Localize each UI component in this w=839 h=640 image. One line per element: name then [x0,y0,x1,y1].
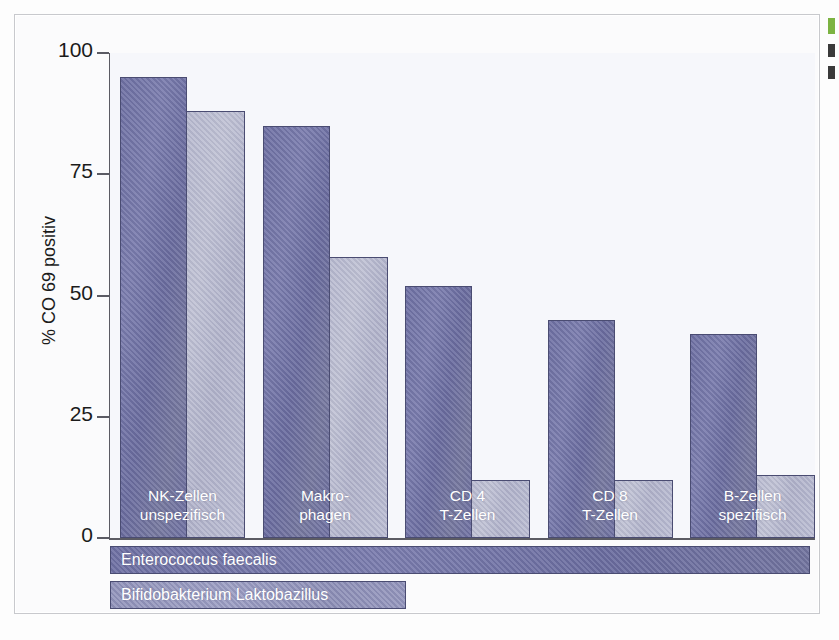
bar-series-enterococcus[interactable] [405,286,472,538]
y-axis-tick-mark [97,173,109,175]
y-axis-tick-mark [97,416,109,418]
bar-group: CD 4T-Zellen [405,53,530,538]
legend-item[interactable]: Enterococcus faecalis [110,546,810,574]
y-axis-tick-mark [97,295,109,297]
y-axis-title: % CO 69 positiv [39,171,60,391]
chart-frame: 1007550250 % CO 69 positiv NK-Zellenunsp… [14,14,820,614]
bar-series-bifidobakterium[interactable] [606,480,673,538]
legend-item[interactable]: Bifidobakterium Laktobazillus [110,581,406,609]
bar-series-bifidobakterium[interactable] [321,257,388,538]
y-axis-tick-label: 0 [35,523,93,547]
legend-item-label: Bifidobakterium Laktobazillus [121,586,328,604]
bar-series-bifidobakterium[interactable] [463,480,530,538]
x-axis-line [109,538,815,540]
bar-group: NK-Zellenunspezifisch [120,53,245,538]
y-axis-tick-label: 100 [35,38,93,62]
plot-area: NK-ZellenunspezifischMakro-phagenCD 4T-Z… [110,53,815,538]
bar-group: Makro-phagen [263,53,388,538]
bar-group: B-Zellenspezifisch [690,53,815,538]
bar-series-bifidobakterium[interactable] [178,111,245,538]
bar-series-enterococcus[interactable] [120,77,187,538]
bar-series-enterococcus[interactable] [690,334,757,538]
bar-series-enterococcus[interactable] [263,126,330,538]
green-marker-artifact [828,18,835,34]
bar-series-enterococcus[interactable] [548,320,615,538]
legend-item-label: Enterococcus faecalis [121,551,277,569]
y-axis-tick-label: 25 [35,402,93,426]
dark-marker-artifact-1 [828,44,835,57]
y-axis-tick-mark [97,52,109,54]
figure-container: 1007550250 % CO 69 positiv NK-Zellenunsp… [0,0,839,640]
bar-group: CD 8T-Zellen [548,53,673,538]
page-margin-artifacts [828,10,839,80]
dark-marker-artifact-2 [828,66,835,79]
bar-series-bifidobakterium[interactable] [748,475,815,538]
chart-legend: Enterococcus faecalisBifidobakterium Lak… [110,546,816,616]
y-axis-tick-mark [97,537,109,539]
